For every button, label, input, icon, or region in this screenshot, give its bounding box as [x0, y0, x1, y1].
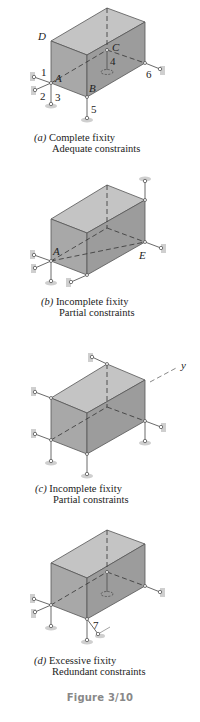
box-diagram-incomplete-fixity-c: y: [0, 340, 200, 480]
label-e: E: [138, 249, 146, 261]
box-diagram-incomplete-fixity-b: A E: [0, 170, 200, 300]
box-diagram-complete-fixity: D A B C 1 2 3 4 5 6: [0, 0, 200, 130]
caption-d: (d) Excessive fixity Redundant constrain…: [34, 655, 146, 677]
caption-line2: Partial constraints: [35, 494, 129, 505]
caption-line1: Incomplete fixity: [56, 296, 129, 307]
link-7-leader: [98, 627, 110, 634]
caption-tag: (a): [34, 132, 46, 143]
caption-tag: (d): [34, 655, 46, 666]
label-c: C: [112, 41, 120, 53]
panel-a: D A B C 1 2 3 4 5 6 (a) Complete fixity …: [0, 0, 200, 170]
caption-tag: (b): [41, 296, 53, 307]
label-link-7: 7: [93, 619, 99, 631]
caption-line2: Partial constraints: [41, 307, 135, 318]
label-y-axis: y: [180, 359, 186, 371]
caption-line1: Excessive fixity: [49, 655, 116, 666]
box-diagram-excessive-fixity: 7: [0, 520, 200, 660]
panel-d: 7 (d) Excessive fixity Redundant constra…: [0, 520, 200, 690]
caption-c: (c) Incomplete fixity Partial constraint…: [35, 483, 129, 505]
caption-line2: Adequate constraints: [34, 143, 140, 154]
caption-line1: Complete fixity: [49, 132, 115, 143]
caption-line2: Redundant constraints: [34, 666, 146, 677]
label-link-4: 4: [110, 55, 116, 67]
y-axis-line: [150, 367, 178, 382]
label-link-3: 3: [55, 91, 61, 103]
figure-label: Figure 3/10: [0, 692, 200, 703]
panel-b: A E (b) Incomplete fixity Partial constr…: [0, 170, 200, 340]
label-link-2: 2: [40, 90, 46, 102]
panel-c: y: [0, 340, 200, 520]
label-a: A: [52, 245, 60, 257]
label-b: B: [89, 82, 96, 94]
label-d: D: [37, 30, 46, 42]
caption-b: (b) Incomplete fixity Partial constraint…: [41, 296, 135, 318]
caption-line1: Incomplete fixity: [49, 483, 122, 494]
caption-a: (a) Complete fixity Adequate constraints: [34, 132, 140, 154]
caption-tag: (c): [35, 483, 47, 494]
label-link-6: 6: [146, 68, 152, 80]
label-link-1: 1: [41, 66, 47, 78]
label-link-5: 5: [91, 103, 97, 115]
label-a: A: [54, 72, 62, 84]
